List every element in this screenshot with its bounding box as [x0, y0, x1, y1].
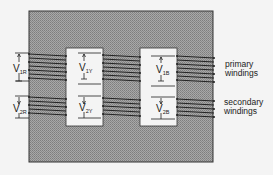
- voltage-label-v1b: V1B: [156, 64, 169, 76]
- core-window-left: [66, 48, 103, 126]
- transformer-core: [29, 11, 213, 162]
- transformer-diagram: [0, 0, 273, 175]
- voltage-label-v2y: V2Y: [79, 102, 92, 114]
- voltage-label-v2r: V2R: [13, 103, 27, 115]
- secondary-windings-label: secondary windings: [224, 98, 263, 116]
- primary-windings-label: primary windings: [225, 60, 258, 78]
- voltage-label-v1y: V1Y: [79, 62, 92, 74]
- voltage-label-v2b: V2B: [156, 103, 169, 115]
- voltage-label-v1r: V1R: [13, 63, 27, 75]
